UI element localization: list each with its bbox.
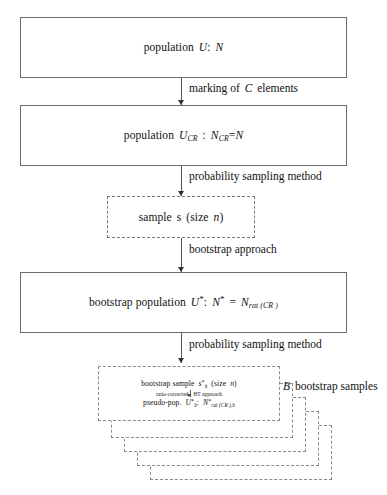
bootstrap-sample-box-front: bootstrap sample s*b (size n) ratio-corr… bbox=[98, 366, 280, 421]
bootstrap-samples-annotation: B bootstrap samples bbox=[283, 380, 378, 392]
arrowhead-stack-inner bbox=[187, 394, 191, 397]
bootstrap-sample-label: bootstrap sample s*b (size n) bbox=[141, 379, 236, 389]
bootstrap-sample-stack: bootstrap sample s*b (size n) ratio-corr… bbox=[0, 0, 387, 495]
approach-divider bbox=[190, 390, 191, 397]
pseudo-population-label: pseudo-pop. U*b: N*rat (CR ),b bbox=[143, 398, 235, 408]
bootstrap-flowchart: population U: N marking of C elements po… bbox=[0, 0, 387, 495]
